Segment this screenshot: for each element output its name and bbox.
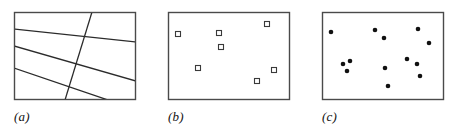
- dot-marker: [405, 57, 410, 62]
- panel-b-plot: [154, 0, 308, 104]
- panel-c: (c): [308, 0, 462, 136]
- dot-marker: [345, 69, 350, 74]
- dot-marker: [341, 62, 346, 67]
- dot-marker: [427, 41, 432, 46]
- dot-marker: [415, 62, 420, 67]
- plot-frame: [169, 13, 290, 100]
- panel-c-caption: (c): [322, 110, 337, 123]
- dot-marker: [418, 74, 423, 79]
- dot-marker: [416, 27, 421, 32]
- square-marker: [255, 79, 260, 84]
- dot-marker: [382, 36, 387, 41]
- panel-a-caption: (a): [14, 110, 30, 123]
- panel-a: (a): [0, 0, 154, 136]
- square-marker: [219, 45, 224, 50]
- square-marker: [196, 66, 201, 71]
- dot-marker: [386, 84, 391, 89]
- dot-marker: [329, 30, 334, 35]
- dot-marker: [383, 66, 388, 71]
- plot-frame: [323, 13, 444, 100]
- panel-c-plot: [308, 0, 462, 104]
- panel-a-frame: [15, 13, 136, 100]
- panel-a-plot: [0, 0, 154, 104]
- plot-frame: [15, 13, 136, 100]
- panel-b-caption: (b): [168, 110, 184, 123]
- square-marker: [272, 68, 277, 73]
- square-marker: [265, 22, 270, 27]
- panel-b: (b): [154, 0, 308, 136]
- square-marker: [176, 32, 181, 37]
- square-marker: [217, 31, 222, 36]
- three-panel-figure: (a) (b): [0, 0, 462, 136]
- dot-marker: [348, 59, 353, 64]
- dot-marker: [373, 28, 378, 33]
